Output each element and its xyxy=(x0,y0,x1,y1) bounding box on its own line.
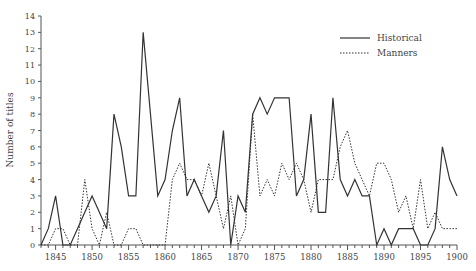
x-tick-label: 1855 xyxy=(118,252,140,262)
legend-label-historical: Historical xyxy=(377,33,422,43)
x-tick-label: 1845 xyxy=(45,252,67,262)
y-tick-label: 13 xyxy=(25,28,35,37)
series-lines xyxy=(41,32,457,245)
y-tick-label: 12 xyxy=(25,45,35,54)
x-tick-label: 1880 xyxy=(300,252,322,262)
y-tick-label: 14 xyxy=(25,12,35,21)
x-tick-label: 1850 xyxy=(81,252,103,262)
y-tick-label: 7 xyxy=(30,127,35,136)
x-tick-label: 1875 xyxy=(264,252,286,262)
legend-label-manners: Manners xyxy=(377,48,418,58)
y-tick-label: 5 xyxy=(30,159,35,168)
y-tick-label: 1 xyxy=(30,225,35,234)
x-tick-label: 1885 xyxy=(337,252,359,262)
series-historical xyxy=(41,32,457,245)
y-tick-label: 3 xyxy=(30,192,35,201)
x-tick-label: 1895 xyxy=(410,252,432,262)
y-tick-label: 11 xyxy=(25,61,35,70)
y-tick-label: 6 xyxy=(30,143,35,152)
line-chart: 0123456789101112131418451850185518601865… xyxy=(0,0,476,271)
y-tick-label: 8 xyxy=(30,110,35,119)
y-axis-label: Number of titles xyxy=(5,92,15,167)
x-tick-label: 1900 xyxy=(446,252,468,262)
x-tick-label: 1870 xyxy=(227,252,249,262)
y-tick-label: 2 xyxy=(30,208,35,217)
series-manners xyxy=(41,114,457,245)
chart-canvas: 0123456789101112131418451850185518601865… xyxy=(0,0,476,271)
x-tick-label: 1890 xyxy=(373,252,395,262)
y-tick-label: 9 xyxy=(30,94,35,103)
legend: Historical Manners xyxy=(340,33,422,58)
x-tick-label: 1865 xyxy=(191,252,213,262)
y-tick-label: 4 xyxy=(30,176,35,185)
x-tick-label: 1860 xyxy=(154,252,176,262)
y-tick-label: 10 xyxy=(25,77,35,86)
y-tick-label: 0 xyxy=(30,241,35,250)
